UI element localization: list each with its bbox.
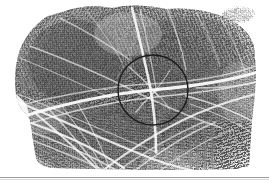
ridge-field xyxy=(0,0,269,188)
secondary-smudge-grain xyxy=(221,6,255,24)
bottom-rule xyxy=(0,177,269,178)
bottom-rule-shadow xyxy=(0,179,269,180)
figure-root xyxy=(0,0,269,188)
palm-print-figure xyxy=(0,0,269,188)
palm-print-image xyxy=(0,0,269,188)
